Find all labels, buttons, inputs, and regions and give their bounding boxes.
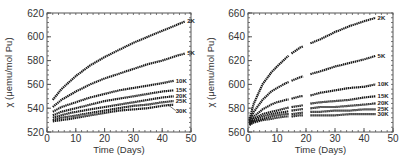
x-tick-label: 30	[329, 133, 341, 144]
series-line	[310, 109, 375, 112]
y-tick-label: 560	[27, 79, 44, 90]
x-tick-label: 50	[185, 133, 197, 144]
series-line	[292, 76, 304, 80]
series-line	[310, 84, 375, 95]
series-2K: 2K	[53, 18, 196, 100]
x-tick-label: 40	[358, 133, 370, 144]
y-tick-label: 600	[228, 79, 245, 90]
series-10K: 10K	[53, 78, 188, 112]
y-tick-label: 520	[27, 127, 44, 138]
chart-left-panel: 01020304050520540560580600620Time (Days)…	[3, 8, 197, 156]
series-line	[292, 113, 304, 115]
series-30K: 30K	[249, 111, 389, 125]
series-line	[310, 103, 375, 108]
series-label-2K: 2K	[187, 18, 195, 24]
x-tick-label: 10	[271, 133, 283, 144]
y-tick-label: 640	[228, 31, 245, 42]
x-tick-label: 0	[245, 133, 251, 144]
series-line	[310, 114, 375, 115]
x-axis-label: Time (Days)	[295, 144, 346, 155]
series-line	[292, 109, 304, 111]
series-label-10K: 10K	[176, 78, 188, 84]
x-axis-label: Time (Days)	[93, 144, 144, 155]
series-line	[292, 46, 304, 53]
series-label-15K: 15K	[378, 93, 390, 99]
series-label-2K: 2K	[378, 15, 386, 21]
figure: 01020304050520540560580600620Time (Days)…	[0, 0, 404, 161]
series-line	[292, 115, 304, 116]
y-axis-label: χ (μemu/mol Pu)	[205, 37, 216, 107]
series-line	[310, 96, 375, 103]
y-tick-label: 560	[228, 127, 245, 138]
x-tick-label: 30	[128, 133, 140, 144]
x-tick-label: 50	[387, 133, 399, 144]
y-tick-label: 660	[228, 8, 245, 19]
series-line	[53, 81, 174, 112]
x-tick-label: 0	[44, 133, 50, 144]
y-tick-label: 540	[27, 103, 44, 114]
series-line	[310, 18, 375, 44]
y-tick-label: 580	[27, 55, 44, 66]
series-label-10K: 10K	[378, 81, 390, 87]
series-label-25K: 25K	[176, 98, 188, 104]
y-tick-label: 620	[27, 8, 44, 19]
y-tick-label: 580	[228, 103, 245, 114]
y-tick-label: 600	[27, 31, 44, 42]
series-label-30K: 30K	[176, 108, 188, 114]
series-label-5K: 5K	[378, 53, 386, 59]
x-tick-label: 20	[300, 133, 312, 144]
series-line	[310, 56, 375, 74]
series-line	[292, 105, 304, 107]
y-axis-label: χ (μemu/mol Pu)	[3, 37, 14, 107]
series-line	[292, 96, 304, 99]
series-20K: 20K	[53, 93, 188, 117]
y-tick-label: 620	[228, 55, 245, 66]
chart-right-panel: 01020304050560580600620640660Time (Days)…	[205, 8, 399, 156]
x-tick-label: 40	[157, 133, 169, 144]
x-tick-label: 20	[99, 133, 111, 144]
x-tick-label: 10	[70, 133, 82, 144]
series-label-5K: 5K	[187, 50, 195, 56]
series-label-30K: 30K	[378, 111, 390, 117]
